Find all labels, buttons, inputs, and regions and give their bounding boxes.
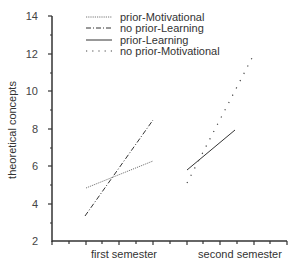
legend: prior-Motivational no prior-Learning pri… xyxy=(86,11,220,57)
y-axis-title: theoretical concepts xyxy=(6,81,18,179)
series-prior-motivational xyxy=(86,161,153,188)
y-tick-label: 8 xyxy=(32,123,38,135)
series-no-prior-learning xyxy=(85,120,153,216)
x-label-second-semester: second semester xyxy=(198,248,282,260)
y-tick-label: 2 xyxy=(32,235,38,247)
legend-label: no prior-Learning xyxy=(120,22,204,34)
y-tick-label: 6 xyxy=(32,160,38,172)
y-tick-label: 4 xyxy=(32,198,38,210)
line-chart: 2 4 6 8 10 12 14 theoretical concepts fi… xyxy=(0,0,297,267)
series-prior-learning xyxy=(187,130,235,170)
series-no-prior-motivational xyxy=(187,58,252,183)
y-axis: 2 4 6 8 10 12 14 theoretical concepts xyxy=(6,10,52,247)
y-tick-label: 14 xyxy=(26,10,38,22)
plot-area xyxy=(85,58,252,216)
legend-label: no prior-Motivational xyxy=(120,45,220,57)
y-tick-label: 12 xyxy=(26,48,38,60)
x-label-first-semester: first semester xyxy=(91,248,157,260)
y-tick-label: 10 xyxy=(26,85,38,97)
x-axis: first semester second semester xyxy=(52,241,287,260)
